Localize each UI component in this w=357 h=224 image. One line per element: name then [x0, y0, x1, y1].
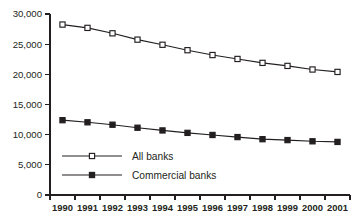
data-point-marker — [260, 60, 265, 65]
data-point-marker — [235, 56, 240, 61]
legend-marker-open-square — [89, 153, 94, 158]
legend-item-commercial-banks[interactable]: Commercial banks — [62, 170, 216, 181]
data-point-marker — [210, 52, 215, 57]
legend-item-all-banks[interactable]: All banks — [62, 151, 173, 162]
legend-label: All banks — [132, 151, 173, 162]
data-point-marker — [110, 122, 115, 127]
data-point-marker — [260, 137, 265, 142]
data-point-marker — [85, 120, 90, 125]
data-point-marker — [335, 69, 340, 74]
data-point-marker — [135, 37, 140, 42]
data-point-marker — [60, 118, 65, 123]
data-point-marker — [235, 134, 240, 139]
x-axis: 1990199119921993199419951996199719981999… — [50, 195, 350, 213]
series-line — [63, 120, 338, 142]
x-axis-tick-label: 1997 — [227, 202, 248, 213]
series-all-banks — [60, 22, 340, 75]
y-axis-tick-label: 10,000 — [13, 129, 42, 140]
data-point-marker — [60, 22, 65, 27]
data-point-marker — [135, 125, 140, 130]
y-axis: 05,00010,00015,00020,00025,00030,000 — [13, 8, 50, 200]
x-axis-tick-label: 1994 — [152, 202, 174, 213]
data-point-marker — [160, 42, 165, 47]
x-axis-tick-label: 1992 — [102, 202, 123, 213]
line-chart: 05,00010,00015,00020,00025,00030,000 199… — [0, 0, 357, 224]
series-commercial-banks — [60, 118, 340, 145]
x-axis-tick-label: 2001 — [327, 202, 348, 213]
x-axis-tick-label: 1998 — [252, 202, 273, 213]
x-axis-tick-label: 1996 — [202, 202, 223, 213]
data-point-marker — [185, 48, 190, 53]
y-axis-tick-label: 15,000 — [13, 99, 42, 110]
data-point-marker — [285, 63, 290, 68]
y-axis-tick-label: 5,000 — [18, 159, 42, 170]
data-point-marker — [85, 25, 90, 30]
x-axis-tick-label: 1990 — [52, 202, 73, 213]
series-line — [63, 25, 338, 72]
data-point-marker — [210, 132, 215, 137]
x-axis-tick-label: 1993 — [127, 202, 148, 213]
chart-page: 05,00010,00015,00020,00025,00030,000 199… — [0, 0, 357, 224]
x-axis-tick-label: 1999 — [277, 202, 298, 213]
x-axis-tick-label: 1995 — [177, 202, 198, 213]
data-point-marker — [160, 128, 165, 133]
data-point-marker — [310, 67, 315, 72]
y-axis-tick-label: 25,000 — [13, 39, 42, 50]
y-axis-tick-label: 30,000 — [13, 8, 42, 19]
x-axis-tick-label: 2000 — [302, 202, 323, 213]
y-axis-tick-label: 20,000 — [13, 69, 42, 80]
y-axis-tick-label: 0 — [37, 189, 42, 200]
chart-legend: All banksCommercial banks — [62, 151, 216, 181]
data-point-marker — [285, 138, 290, 143]
x-axis-tick-label: 1991 — [77, 202, 98, 213]
data-point-marker — [335, 139, 340, 144]
legend-marker-filled-square — [89, 172, 94, 177]
legend-label: Commercial banks — [132, 170, 216, 181]
data-point-marker — [185, 130, 190, 135]
data-point-marker — [310, 139, 315, 144]
data-point-marker — [110, 31, 115, 36]
series-layer — [60, 22, 340, 145]
